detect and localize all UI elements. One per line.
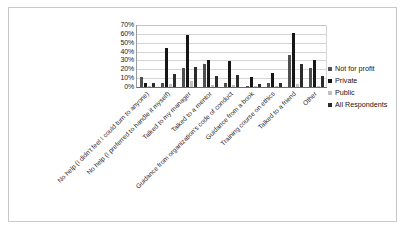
x-axis-label: No help (I didn't feel I could turn to a…: [56, 90, 150, 184]
legend-swatch-icon: [328, 67, 332, 71]
x-axis-label: Talked to a friend: [257, 90, 297, 130]
legend-item[interactable]: Not for profit: [328, 63, 398, 74]
legend-item[interactable]: All Respondents: [328, 99, 398, 110]
legend-swatch-icon: [328, 79, 332, 83]
x-axis-label: Other: [302, 90, 319, 107]
legend-label: Not for profit: [335, 65, 375, 73]
chart-frame: 70%60%50%40%30%20%10%0% No help (I didn'…: [8, 7, 397, 222]
x-axis-category-labels: No help (I didn't feel I could turn to a…: [9, 8, 398, 223]
legend-label: Private: [335, 77, 357, 85]
legend-item[interactable]: Private: [328, 75, 398, 86]
legend-item[interactable]: Public: [328, 87, 398, 98]
chart-plot-wrapper: 70%60%50%40%30%20%10%0% No help (I didn'…: [9, 8, 398, 223]
legend-label: All Respondents: [335, 101, 387, 109]
legend-swatch-icon: [328, 103, 332, 107]
legend-label: Public: [335, 89, 355, 97]
legend-swatch-icon: [328, 91, 332, 95]
chart-legend: Not for profitPrivatePublicAll Responden…: [328, 63, 398, 111]
